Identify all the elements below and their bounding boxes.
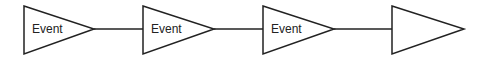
- event-node-3[interactable]: Event: [263, 6, 334, 54]
- triangle-shape: [392, 6, 464, 54]
- event-node-1[interactable]: Event: [24, 6, 94, 54]
- event-flow-diagram: Event Event Event: [0, 0, 488, 60]
- node-label: Event: [271, 22, 302, 36]
- event-node-2[interactable]: Event: [143, 6, 214, 54]
- node-label: Event: [151, 22, 182, 36]
- event-node-4[interactable]: [392, 6, 464, 54]
- node-label: Event: [32, 22, 63, 36]
